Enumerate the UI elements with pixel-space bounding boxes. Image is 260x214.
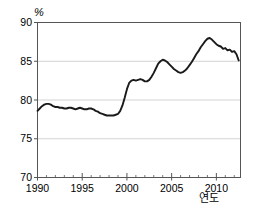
y-major-ticks: [34, 23, 38, 178]
line-chart: % 90 85 80 75 70 1990 1995 2000 2005 201…: [0, 0, 260, 214]
plot-area: [0, 0, 260, 214]
data-series-line: [38, 38, 239, 116]
gridlines: [38, 61, 241, 139]
